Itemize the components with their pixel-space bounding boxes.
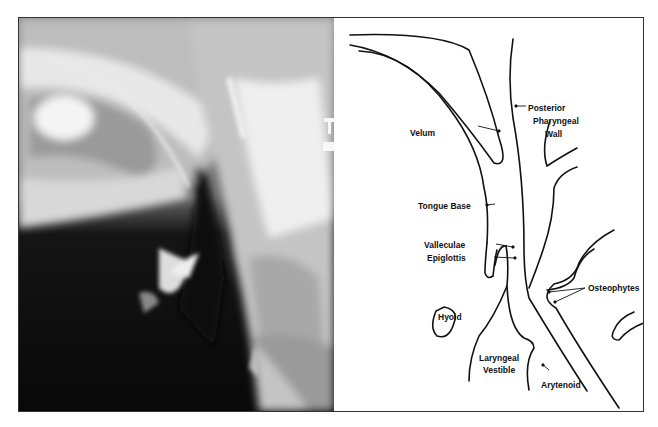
label-velum: Velum — [410, 128, 435, 138]
label-pharyngeal: Pharyngeal — [533, 116, 579, 126]
label-arytenoid: Arytenoid — [541, 380, 581, 390]
label-vestible: Vestible — [483, 365, 515, 375]
label-tongue-base: Tongue Base — [418, 201, 471, 211]
label-osteophytes: Osteophytes — [588, 283, 640, 293]
label-valleculae: Valleculae — [424, 240, 465, 250]
label-wall: Wall — [545, 129, 562, 139]
label-posterior: Posterior — [528, 103, 566, 113]
anatomy-diagram: Posterior Pharyngeal Wall Velum Tongue B… — [19, 18, 644, 411]
label-epiglottis: Epiglottis — [427, 253, 466, 263]
label-laryngeal: Laryngeal — [479, 353, 519, 363]
label-hyoid: Hyoid — [438, 312, 462, 322]
figure-frame: Posterior Pharyngeal Wall Velum Tongue B… — [18, 17, 644, 412]
